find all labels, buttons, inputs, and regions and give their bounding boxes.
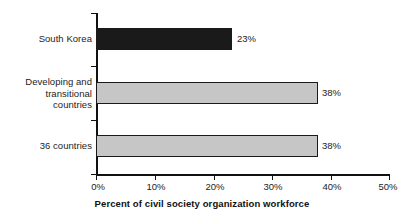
y-axis-tick (91, 13, 97, 14)
bar-36-countries (96, 135, 318, 157)
y-axis-tick (91, 174, 97, 175)
y-axis-tick (91, 120, 97, 121)
bar-chart: 23% 38% 38% 0% 10% 20% 30% 40% 50% South… (0, 0, 404, 221)
x-axis-tick-label-10: 10% (146, 181, 165, 192)
x-axis-line (96, 174, 390, 176)
y-axis-tick (91, 66, 97, 67)
category-label-36-countries: 36 countries (0, 140, 92, 152)
bar-south-korea (96, 28, 232, 50)
bar-value-developing-transitional: 38% (322, 87, 341, 98)
category-label-line: countries (0, 99, 92, 111)
x-axis-tick-label-0: 0% (91, 181, 105, 192)
x-axis-title: Percent of civil society organization wo… (0, 198, 404, 209)
category-label-line: South Korea (0, 33, 92, 45)
category-label-line: transitional (0, 88, 92, 100)
x-axis-tick-40 (331, 176, 332, 180)
x-axis-tick-10 (155, 176, 156, 180)
category-label-line: 36 countries (0, 140, 92, 152)
x-axis-tick-label-40: 40% (322, 181, 341, 192)
bar-value-36-countries: 38% (322, 140, 341, 151)
x-axis-tick-0 (96, 176, 97, 180)
x-axis-tick-label-30: 30% (263, 181, 282, 192)
x-axis-tick-label-50: 50% (378, 181, 397, 192)
x-axis-tick-30 (272, 176, 273, 180)
bar-value-south-korea: 23% (237, 33, 256, 44)
bar-developing-transitional (96, 82, 318, 104)
category-label-south-korea: South Korea (0, 33, 92, 45)
category-label-developing-transitional: Developing and transitional countries (0, 76, 92, 111)
x-axis-tick-20 (214, 176, 215, 180)
category-label-line: Developing and (0, 76, 92, 88)
x-axis-tick-label-20: 20% (205, 181, 224, 192)
x-axis-tick-50 (389, 176, 390, 180)
